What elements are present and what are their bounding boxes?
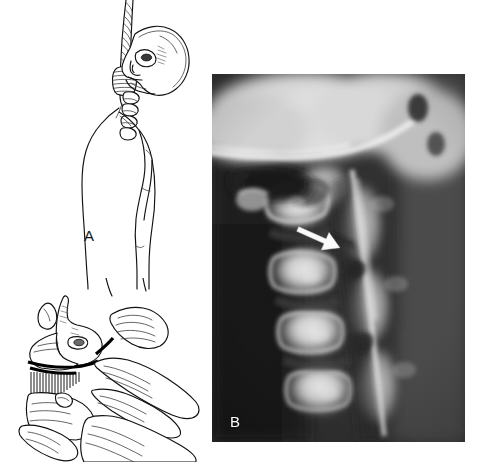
panel-a-line-drawing: A — [0, 0, 212, 290]
facet-surface — [74, 339, 84, 345]
background-fragments — [106, 278, 146, 296]
hyoid-shadow — [236, 189, 268, 211]
c2-spinous-process — [110, 307, 168, 348]
radiograph-svg — [212, 74, 465, 442]
radiograph-image — [212, 74, 465, 442]
panel-label-b: B — [230, 414, 240, 429]
panel-b-radiograph: B — [212, 74, 465, 442]
panel-label-a: A — [84, 228, 94, 243]
cervical-spine — [120, 92, 139, 140]
torso-profile — [82, 104, 155, 289]
figure-root: A — [0, 0, 481, 462]
panel-a-svg — [0, 0, 212, 290]
axis-vertebra — [30, 296, 102, 370]
panel-c-line-drawing: C — [0, 278, 212, 462]
panel-c-svg — [0, 278, 212, 462]
